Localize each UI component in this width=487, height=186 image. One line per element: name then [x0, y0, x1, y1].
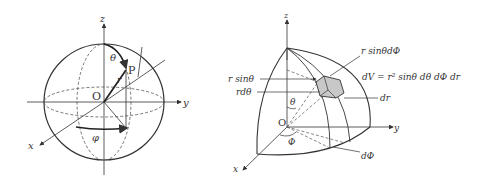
z-axis-label: z — [283, 11, 289, 20]
r-dtheta-label: rdθ — [236, 87, 252, 97]
z-axis-label: z — [99, 14, 105, 24]
xy-projection — [104, 102, 126, 128]
r-sin-theta-label: r sinθ — [228, 74, 254, 84]
dashed-horizontal — [287, 70, 318, 82]
phi-arc — [76, 127, 127, 129]
dphi-label: dΦ — [361, 151, 374, 161]
tangent-line — [138, 47, 142, 77]
radius-label: r — [117, 75, 122, 85]
phi-label: φ — [92, 132, 99, 143]
y-axis-label: y — [393, 123, 400, 133]
point-label: P — [128, 64, 136, 77]
y-axis-label: y — [182, 97, 189, 108]
theta-arc — [287, 107, 296, 109]
r-sin-theta-dphi-label: r sinθdΦ — [361, 46, 400, 56]
theta-label: θ — [290, 97, 296, 107]
phi-label: Φ — [288, 137, 295, 147]
rsin-dphi-leader — [330, 56, 360, 76]
dr-label: dr — [380, 93, 391, 103]
xz-arc — [257, 48, 287, 154]
origin-label: O — [92, 90, 101, 103]
volume-element-formula: dV = r² sinθ dθ dΦ dr — [362, 72, 461, 82]
dphi-leader — [333, 147, 360, 152]
x-axis — [243, 127, 287, 170]
phi-arc — [280, 132, 296, 136]
r-vector — [104, 70, 126, 102]
volume-element — [316, 76, 344, 98]
dashed-ray-4 — [287, 127, 345, 143]
spherical-coordinates-diagram: z y x O P r θ φ — [0, 0, 487, 186]
right-volume-element-figure: z y x O θ Φ r sinθdΦ dV = r² sinθ dθ dΦ … — [228, 11, 461, 174]
theta-label: θ — [110, 52, 116, 63]
x-axis-label: x — [233, 164, 238, 174]
origin-label: O — [278, 117, 286, 128]
x-axis-label: x — [28, 140, 34, 151]
left-sphere-figure: z y x O P r θ φ — [27, 14, 189, 175]
